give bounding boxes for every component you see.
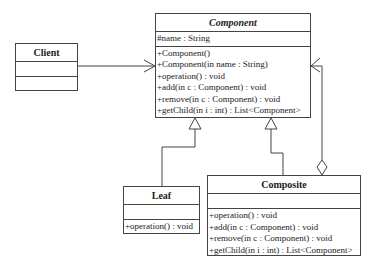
operation: +remove(in c : Component) : void [209,233,360,245]
operation: +getChild(in i : int) : List<Component> [157,105,310,117]
operation: +add(in c : Component) : void [157,82,310,94]
class-leaf-name: Leaf [124,187,199,205]
association-client-component [78,60,155,72]
class-leaf-attributes [124,205,199,220]
class-client-name: Client [16,44,77,62]
class-component-operations: +Component() +Component(in name : String… [156,47,310,118]
operation: +Component(in name : String) [157,59,310,71]
class-component[interactable]: Component #name : String +Component() +C… [155,13,311,118]
class-leaf[interactable]: Leaf +operation() : void [123,186,200,234]
class-leaf-operations: +operation() : void [124,220,199,234]
class-composite[interactable]: Composite +operation() : void +add(in c … [207,175,361,256]
class-component-name: Component [156,14,310,32]
class-client-operations [16,77,77,91]
operation: +operation() : void [209,210,360,222]
class-composite-attributes [208,194,360,209]
operation: +Component() [157,48,310,60]
operation: +add(in c : Component) : void [209,222,360,234]
attribute: #name : String [157,33,310,45]
operation: +remove(in c : Component) : void [157,94,310,106]
aggregation-composite-component [311,58,327,175]
class-client-attributes [16,62,77,77]
operation: +operation() : void [125,221,199,233]
generalization-leaf [162,118,201,186]
class-composite-name: Composite [208,176,360,194]
class-component-attributes: #name : String [156,32,310,47]
class-client[interactable]: Client [15,43,78,91]
operation: +getChild(in i : int) : List<Component> [209,245,360,257]
operation: +operation() : void [157,71,310,83]
class-composite-operations: +operation() : void +add(in c : Componen… [208,209,360,257]
generalization-composite [265,118,283,175]
